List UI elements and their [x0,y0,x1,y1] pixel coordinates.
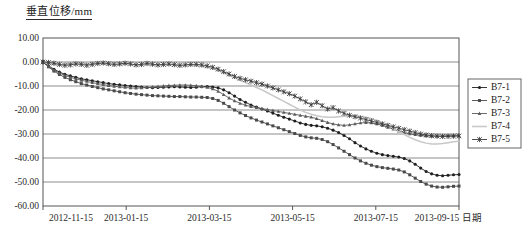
data-point [343,150,346,153]
data-point [135,93,138,96]
series-B7-5 [41,59,462,139]
data-point [151,94,154,97]
data-point [222,88,225,91]
data-point [211,97,214,100]
data-point [217,99,220,102]
data-point [113,89,116,92]
series-line [43,62,459,144]
data-point [397,169,400,172]
data-point [200,96,203,99]
data-point [239,111,242,114]
data-point [140,93,143,96]
data-point [129,92,132,95]
data-point [288,130,291,133]
data-point [314,100,319,105]
data-point [354,157,357,160]
x-tick-label: 2013-01-15 [104,213,149,223]
data-point [359,159,362,162]
data-point [239,98,242,101]
y-tick-label: 10.00 [18,33,40,43]
data-point [271,112,274,115]
data-point [228,105,231,108]
chart-legend[interactable]: B7-1B7-2B7-3B7-4B7-5 [468,79,521,148]
data-point [173,95,176,98]
data-point [337,146,340,149]
data-point [364,147,367,150]
data-point [397,155,400,158]
y-tick-label: -20.00 [14,105,39,115]
data-point [189,96,192,99]
data-point [381,153,384,156]
data-point [326,140,329,143]
data-point [436,174,439,177]
data-point [452,185,455,188]
data-point [315,124,318,127]
data-point [359,144,362,147]
y-tick-label: -40.00 [14,153,39,163]
data-point [414,177,417,180]
data-point [217,86,220,89]
legend-label: B7-5 [491,134,510,144]
data-point [282,128,285,131]
data-point [447,185,450,188]
legend-label: B7-2 [491,95,510,105]
data-point [430,172,433,175]
data-point [343,134,346,137]
data-point [478,99,481,102]
data-point [293,132,296,135]
series-line [43,62,459,136]
data-point [321,125,324,128]
y-tick-label: -10.00 [14,81,39,91]
data-point [414,163,417,166]
data-point [458,185,461,188]
data-point [332,143,335,146]
data-point [375,165,378,168]
x-tick-label: 2013-05-15 [270,213,315,223]
data-point [146,94,149,97]
x-tick-label: 2013-03-15 [187,213,232,223]
data-point [96,86,99,89]
data-point [364,162,367,165]
data-point [337,131,340,134]
legend-label: B7-1 [491,82,510,92]
data-point [74,80,77,83]
data-point [441,186,444,189]
data-point [320,103,325,108]
data-point [310,124,313,127]
data-point [408,173,411,176]
x-axis-title: 日期 [462,213,482,223]
data-point [419,180,422,183]
data-point [392,168,395,171]
data-point [107,88,110,91]
data-point [375,152,378,155]
data-point [277,126,280,129]
data-point [457,173,460,176]
data-point [266,122,269,125]
data-point [156,94,159,97]
x-tick-label: 2013-07-15 [354,213,399,223]
data-point [342,111,347,116]
data-point [184,95,187,98]
data-point [425,170,428,173]
x-tick-marks [43,206,459,210]
data-point [332,129,335,132]
data-point [326,127,329,130]
data-point [304,123,307,126]
y-tick-labels: 10.000.00-10.00-20.00-30.00-40.00-50.00-… [14,33,39,211]
data-point [425,183,428,186]
series-B7-3 [41,60,461,137]
data-point [348,137,351,140]
data-point [178,95,181,98]
data-point [310,136,313,139]
data-point [277,114,280,117]
data-point [167,95,170,98]
data-point [293,119,296,122]
data-point [304,135,307,138]
data-point [441,174,444,177]
data-point [392,155,395,158]
data-point [271,124,274,127]
data-point [255,119,258,122]
data-point [118,90,121,93]
data-point [271,85,276,90]
data-point [85,84,88,87]
